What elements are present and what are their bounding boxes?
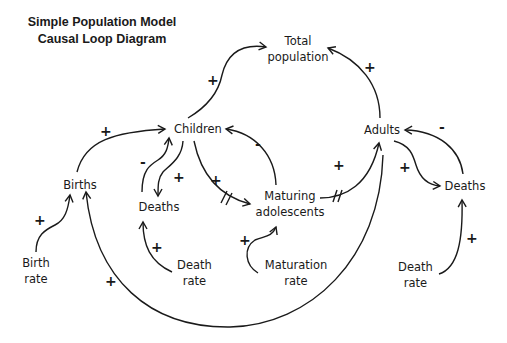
link-deaths-to-children xyxy=(142,138,169,192)
node-births: Births xyxy=(55,177,105,193)
sign-birthrate-births: + xyxy=(34,213,46,227)
node-label: rate xyxy=(260,273,332,289)
sign-maturing-adults: + xyxy=(333,158,345,172)
node-adult-deaths: Deaths xyxy=(440,178,490,194)
sign-adults-total: + xyxy=(364,60,376,74)
node-label: Deaths xyxy=(445,179,486,193)
sign-adultdeathrate-deaths: + xyxy=(466,231,478,245)
sign-children-deaths: + xyxy=(173,170,185,184)
node-label: Maturation xyxy=(260,257,332,273)
link-births-to-children xyxy=(77,129,165,172)
node-adults: Adults xyxy=(357,122,407,138)
title-line-2: Causal Loop Diagram xyxy=(22,31,182,48)
node-label: Birth xyxy=(16,255,56,271)
link-adultdeathrate-to-deaths xyxy=(439,200,462,274)
sign-births-children: + xyxy=(100,124,112,138)
link-adults-to-births xyxy=(86,155,383,327)
sign-maturing-children: - xyxy=(255,137,261,151)
sign-maturationrate-maturing: + xyxy=(239,233,251,247)
sign-children-maturing: + xyxy=(210,173,222,187)
causal-loop-diagram xyxy=(0,0,507,343)
node-label: Maturing xyxy=(250,188,330,204)
link-children-to-maturing xyxy=(194,141,250,204)
sign-adults-deaths: + xyxy=(399,160,411,174)
node-label: rate xyxy=(393,275,438,291)
node-label: Death xyxy=(393,259,438,275)
sign-deaths-children: - xyxy=(140,155,146,169)
node-children: Children xyxy=(168,121,228,137)
sign-adults-births: + xyxy=(105,274,117,288)
node-child-death-rate: Death rate xyxy=(172,257,217,289)
node-label: Death xyxy=(172,257,217,273)
node-label: Adults xyxy=(364,123,400,137)
node-label: Children xyxy=(174,122,222,136)
sign-deaths-adults: - xyxy=(439,120,445,134)
node-label: Deaths xyxy=(139,200,180,214)
title-line-1: Simple Population Model xyxy=(22,14,182,31)
link-deaths-to-adults xyxy=(405,130,463,174)
node-label: adolescents xyxy=(250,204,330,220)
node-label: Total xyxy=(262,33,334,49)
node-maturation-rate: Maturation rate xyxy=(260,257,332,289)
sign-deathrate-deaths: + xyxy=(151,240,163,254)
node-birth-rate: Birth rate xyxy=(16,255,56,287)
node-total-population: Total population xyxy=(262,33,334,65)
node-maturing-adolescents: Maturing adolescents xyxy=(250,188,330,220)
node-label: population xyxy=(262,49,334,65)
node-child-deaths: Deaths xyxy=(134,199,184,215)
link-maturing-to-children xyxy=(226,129,276,185)
node-label: Births xyxy=(63,178,97,192)
node-adult-death-rate: Death rate xyxy=(393,259,438,291)
link-children-to-total xyxy=(188,46,266,118)
diagram-title: Simple Population Model Causal Loop Diag… xyxy=(22,14,182,48)
sign-children-total: + xyxy=(207,73,219,87)
node-label: rate xyxy=(172,273,217,289)
node-label: rate xyxy=(16,271,56,287)
